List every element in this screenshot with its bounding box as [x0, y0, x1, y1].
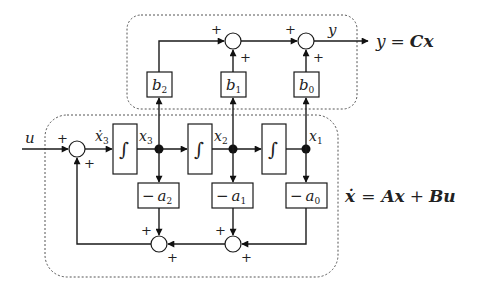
plus-sign: +: [240, 50, 251, 65]
plus-sign: +: [313, 50, 324, 65]
x2-label: x2: [214, 128, 228, 146]
plus-sign: +: [167, 250, 178, 265]
integral-symbol: ∫: [268, 138, 278, 160]
block-diagram: u + + + + + + + + + + ∫ ∫ ∫ ẋ3 x3 x2 x1 …: [0, 0, 482, 291]
plus-sign: +: [241, 250, 252, 265]
integral-symbol: ∫: [194, 138, 204, 160]
output-y-label: y: [327, 21, 337, 39]
plus-sign: +: [215, 223, 226, 238]
x1-label: x1: [309, 128, 323, 146]
output-sum-junction-2: [298, 33, 314, 49]
feedback-sum-junction-2: [151, 236, 167, 252]
input-sum-junction: [69, 141, 85, 157]
a0-to-sum-line: [242, 208, 306, 244]
state-equation: ẋ=Ax+Bu: [344, 186, 456, 206]
plus-sign: +: [211, 22, 222, 37]
plus-sign: +: [57, 131, 68, 146]
x3dot-label: ẋ3: [95, 128, 109, 146]
x3-label: x3: [139, 128, 153, 146]
output-equation: y=Cx: [375, 31, 434, 51]
integral-symbol: ∫: [119, 138, 129, 160]
plus-sign: +: [84, 156, 95, 171]
b2-to-sum-line: [159, 41, 224, 72]
plus-sign: +: [285, 22, 296, 37]
output-sum-junction-1: [225, 33, 241, 49]
feedback-sum-junction-1: [225, 236, 241, 252]
input-u-label: u: [25, 129, 35, 147]
plus-sign: +: [141, 223, 152, 238]
